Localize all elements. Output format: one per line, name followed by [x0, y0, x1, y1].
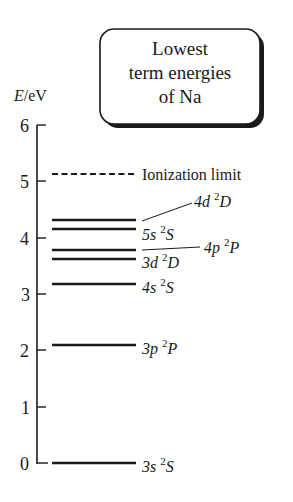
label-3p-2P: 3p 2P	[141, 337, 178, 358]
y-axis-label: E/eV	[13, 87, 47, 104]
leader-4p	[142, 247, 200, 250]
tick-label-5: 5	[20, 172, 29, 192]
ionization-limit-label: Ionization limit	[142, 166, 242, 183]
tick-label-0: 0	[20, 454, 29, 474]
energy-level-diagram: Lowest term energies of Na E/eV 0 1 2 3 …	[0, 0, 293, 502]
tick-label-6: 6	[20, 116, 29, 136]
title-line-2: term energies	[129, 62, 232, 83]
level-labels: 3s 2S 3p 2P 4s 2S 3d 2D 4p 2P 5s 2S 4d 2…	[141, 190, 240, 475]
title-line-3: of Na	[159, 86, 202, 107]
leader-4d	[142, 203, 192, 221]
energy-levels	[52, 220, 136, 463]
tick-label-3: 3	[21, 285, 30, 305]
label-3s-2S: 3s 2S	[141, 455, 174, 475]
y-axis-ticks	[37, 125, 48, 463]
y-axis-tick-labels: 0 1 2 3 4 5 6	[20, 116, 30, 474]
label-4p-2P: 4p 2P	[204, 236, 240, 257]
label-4d-2D: 4d 2D	[194, 190, 232, 210]
label-4s-2S: 4s 2S	[142, 276, 174, 296]
tick-label-4: 4	[20, 229, 29, 249]
label-3d-2D: 3d 2D	[141, 251, 180, 271]
tick-label-1: 1	[21, 398, 30, 418]
label-5s-2S: 5s 2S	[142, 223, 174, 243]
title-line-1: Lowest	[152, 38, 209, 59]
title-box: Lowest term energies of Na	[100, 29, 264, 128]
tick-label-2: 2	[20, 341, 29, 361]
